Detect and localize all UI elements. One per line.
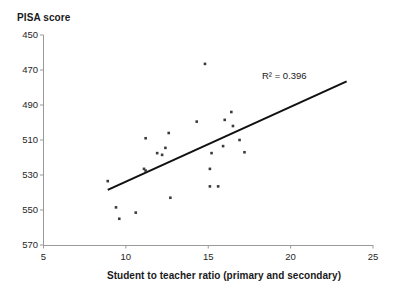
data-point (115, 206, 118, 209)
data-point (195, 120, 198, 123)
data-point (161, 154, 164, 157)
trend-line (108, 81, 347, 190)
data-point (169, 196, 172, 199)
data-point (134, 211, 137, 214)
data-point (209, 168, 212, 171)
x-tick-label: 10 (111, 251, 141, 262)
data-point (144, 169, 147, 172)
data-point (106, 180, 109, 183)
y-tick-label: 530 (8, 169, 38, 180)
scatter-chart: PISA score 570550530510490470450 5101520… (0, 0, 393, 296)
y-tick-label: 450 (8, 29, 38, 40)
data-point (204, 63, 207, 66)
data-point (144, 137, 147, 140)
data-point (164, 147, 167, 150)
y-tick-label: 550 (8, 204, 38, 215)
data-point (230, 111, 233, 114)
x-tick-label: 5 (29, 251, 59, 262)
data-point (209, 185, 212, 188)
data-point (232, 125, 235, 128)
data-point (223, 119, 226, 122)
y-tick-label: 510 (8, 134, 38, 145)
y-tick-label: 470 (8, 64, 38, 75)
y-tick-label: 490 (8, 99, 38, 110)
data-point (210, 152, 213, 155)
axis-lines (44, 35, 374, 246)
x-tick-label: 20 (276, 251, 306, 262)
r-squared-annotation: R² = 0.396 (262, 70, 307, 81)
data-point (118, 217, 121, 220)
x-tick-label: 15 (193, 251, 223, 262)
x-axis-title: Student to teacher ratio (primary and se… (0, 270, 393, 281)
y-axis-ticks (40, 35, 44, 245)
data-point (156, 152, 159, 155)
data-point (217, 185, 220, 188)
trend-line-segment (108, 81, 347, 190)
y-tick-label: 570 (8, 239, 38, 250)
data-points (106, 63, 245, 220)
x-tick-label: 25 (358, 251, 388, 262)
data-point (243, 151, 246, 154)
data-point (167, 132, 170, 135)
data-point (238, 139, 241, 142)
data-point (222, 145, 225, 148)
